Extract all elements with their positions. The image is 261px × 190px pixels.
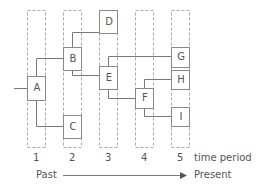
present-label: Present	[194, 169, 232, 181]
node-label-D: D	[100, 16, 118, 28]
node-label-H: H	[172, 74, 190, 86]
time-period-label: time period	[194, 152, 252, 164]
past-label: Past	[36, 169, 57, 181]
time-arrow	[63, 172, 187, 179]
edge-A-C	[37, 100, 64, 127]
column-number-1: 1	[33, 152, 39, 164]
arrow-head-icon	[180, 172, 187, 179]
column-number-3: 3	[105, 152, 111, 164]
node-label-G: G	[172, 51, 190, 63]
edge-E-F	[109, 89, 136, 99]
edge-A-B	[37, 59, 64, 77]
node-label-C: C	[64, 121, 82, 133]
node-label-F: F	[136, 92, 154, 104]
column-number-4: 4	[141, 152, 147, 164]
node-label-I: I	[172, 111, 190, 123]
column-number-2: 2	[69, 152, 75, 164]
node-label-A: A	[28, 82, 46, 94]
edge-F-H	[145, 80, 172, 89]
column-number-5: 5	[177, 152, 183, 164]
edge-B-D	[73, 33, 100, 48]
edge-F-I	[145, 108, 172, 117]
node-label-E: E	[100, 72, 118, 84]
node-label-B: B	[64, 53, 82, 65]
